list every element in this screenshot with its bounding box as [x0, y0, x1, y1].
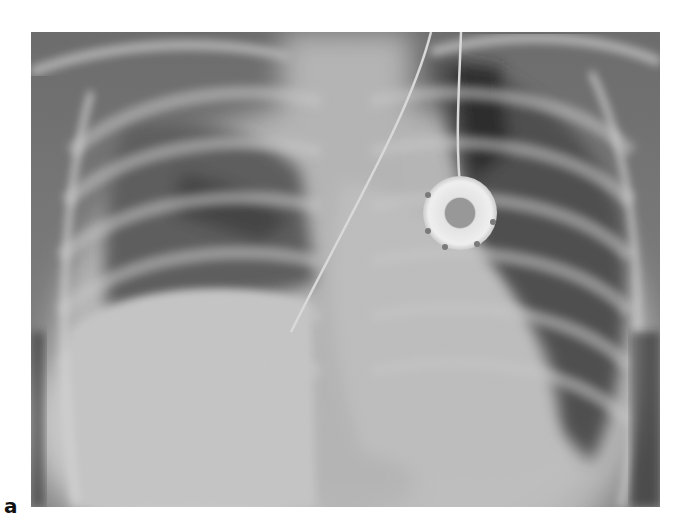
figure: a [0, 0, 687, 532]
chest-xray-image [31, 32, 660, 507]
panel-label: a [4, 496, 18, 516]
xray-image-icon [31, 32, 660, 507]
